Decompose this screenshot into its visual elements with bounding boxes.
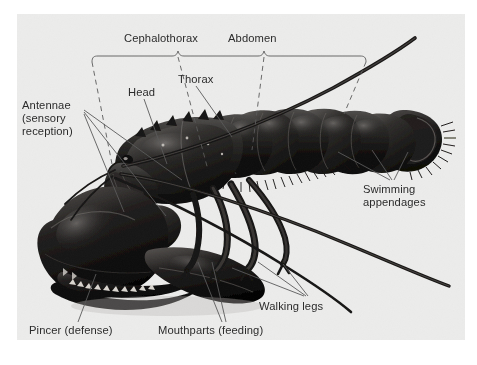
label-pincer: Pincer (defense) [29,324,113,337]
illustration-panel [17,14,465,340]
lobster-anatomy-figure: Cephalothorax Abdomen Thorax Head Antenn… [0,0,477,365]
label-head: Head [128,86,155,99]
label-abdomen: Abdomen [228,32,277,45]
label-thorax: Thorax [178,73,213,86]
label-cephalothorax: Cephalothorax [124,32,198,45]
label-walking-legs: Walking legs [259,300,323,313]
lobster-illustration [17,14,465,340]
label-mouthparts: Mouthparts (feeding) [158,324,263,337]
